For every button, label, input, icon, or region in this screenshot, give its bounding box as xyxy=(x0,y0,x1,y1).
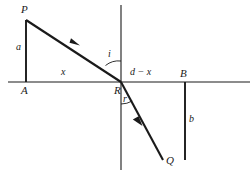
incident-ray-line xyxy=(26,20,121,82)
segment-label-a: a xyxy=(16,42,21,52)
segment-label-b: b xyxy=(189,114,194,124)
point-label-b: B xyxy=(180,68,187,79)
refracted-ray-line xyxy=(121,82,163,160)
point-label-r: R xyxy=(114,85,121,96)
point-label-q: Q xyxy=(166,155,174,166)
angle-label-refraction: r xyxy=(123,94,127,104)
angle-label-incidence: i xyxy=(108,49,111,59)
segment-label-x: x xyxy=(61,67,65,77)
refraction-diagram: P A R B Q a x d − x b i r xyxy=(0,0,252,174)
incident-ray-arrow-icon xyxy=(70,38,81,45)
point-label-p: P xyxy=(21,4,28,15)
angle-of-incidence-arc xyxy=(106,61,122,66)
point-label-a: A xyxy=(21,85,28,96)
segment-label-d-minus-x: d − x xyxy=(130,67,151,77)
diagram-canvas xyxy=(0,0,252,174)
